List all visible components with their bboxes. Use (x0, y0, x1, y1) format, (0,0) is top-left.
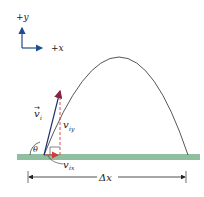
vertical-component-label: v iy (63, 119, 75, 133)
svg-text:iy: iy (69, 125, 75, 133)
svg-text:→: → (34, 104, 40, 112)
angle-label: θ (33, 145, 38, 154)
range-label: Δx (98, 172, 112, 183)
svg-text:ix: ix (69, 164, 75, 171)
horizontal-component-label: v ix (63, 159, 75, 171)
svg-text:i: i (40, 114, 42, 121)
right-angle-marker (50, 147, 60, 155)
range-dimension: Δx (28, 171, 186, 183)
trajectory-curve (44, 57, 188, 155)
y-axis-label: +y (16, 12, 30, 22)
axes-icon: +y +x (16, 12, 64, 53)
x-axis-label: +x (51, 43, 64, 53)
initial-velocity-label: v i → (34, 104, 42, 121)
projectile-diagram: +y +x θ v i → v iy v ix Δx (0, 0, 204, 197)
